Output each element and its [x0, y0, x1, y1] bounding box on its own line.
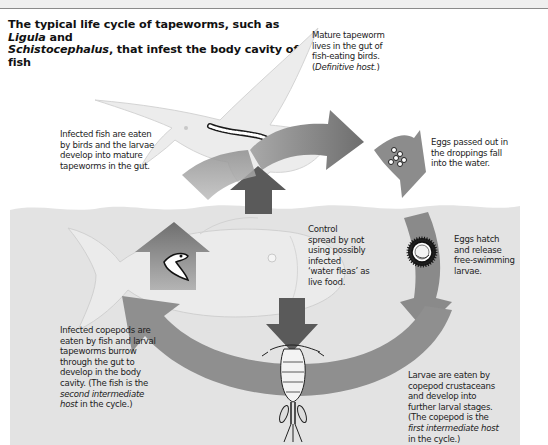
arrow-left-band [182, 150, 256, 200]
label-copepods-eaten: Infected copepods are eaten by fish and … [60, 325, 156, 410]
label-line: by birds and the larvae [60, 140, 154, 151]
label-line: (The copepod is the [408, 412, 499, 423]
label-line: spread by not [308, 235, 370, 246]
label-line: through the gut to [60, 357, 156, 368]
label-line: fish-eating birds. [312, 51, 385, 62]
label-text: ) [376, 62, 379, 72]
label-text: in the cycle.) [78, 399, 133, 409]
label-line: lives in the gut of [312, 41, 385, 52]
label-line: eaten by fish and larval [60, 336, 156, 347]
label-line: and release [454, 245, 515, 256]
label-line: free-swimming [454, 255, 515, 266]
label-line: Control [308, 224, 370, 235]
label-line: live food. [308, 277, 370, 288]
label-line: infected [308, 256, 370, 267]
label-line: larvae. [454, 266, 515, 277]
label-line: using possibly [308, 245, 370, 256]
label-line: ‘water fleas’ as [308, 266, 370, 277]
label-control: Control spread by not using possibly inf… [308, 224, 370, 288]
label-line: Eggs hatch [454, 234, 515, 245]
label-line: host in the cycle.) [60, 399, 156, 410]
label-larvae-eaten: Larvae are eaten by copepod crustaceans … [408, 370, 499, 444]
label-line: further larval stages. [408, 402, 499, 413]
label-italic: Definitive host. [315, 62, 376, 72]
label-line: tapeworms in the gut. [60, 161, 154, 172]
label-line: tapeworms burrow [60, 346, 156, 357]
label-line: Mature tapeworm [312, 30, 385, 41]
egg-hatch-larva-icon [408, 238, 436, 266]
label-line: Infected fish are eaten [60, 129, 154, 140]
label-line: Larvae are eaten by [408, 370, 499, 381]
label-line: develop in the body [60, 367, 156, 378]
label-infected-fish: Infected fish are eaten by birds and the… [60, 129, 154, 171]
label-line: into the water. [431, 158, 508, 169]
label-line: copepod crustaceans [408, 381, 499, 392]
label-italic: first intermediate host [408, 423, 499, 433]
label-line: the droppings fall [431, 148, 508, 159]
label-line: first intermediate host [408, 423, 499, 434]
label-line: cavity. (The fish is the [60, 378, 156, 389]
label-mature-tapeworm: Mature tapeworm lives in the gut of fish… [312, 30, 385, 72]
label-line: develop into mature [60, 150, 154, 161]
label-line: Eggs passed out in [431, 137, 508, 148]
label-line: second intermediate [60, 389, 156, 400]
label-line: and develop into [408, 391, 499, 402]
label-italic: host [60, 399, 78, 409]
label-eggs-passed: Eggs passed out in the droppings fall in… [431, 137, 508, 169]
label-line: in the cycle.) [408, 434, 499, 445]
label-line: (Definitive host.) [312, 62, 385, 73]
label-line: Infected copepods are [60, 325, 156, 336]
label-italic: second intermediate [60, 389, 144, 399]
label-eggs-hatch: Eggs hatch and release free-swimming lar… [454, 234, 515, 276]
